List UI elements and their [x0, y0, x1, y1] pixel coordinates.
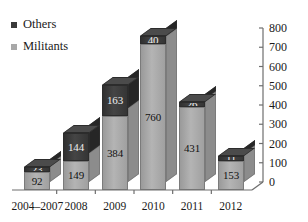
y-axis-tick-label: 600	[269, 61, 287, 73]
y-axis-tick-label: 400	[269, 99, 287, 111]
x-axis-ticks	[57, 190, 212, 194]
chart-axes	[0, 0, 308, 222]
y-axis-tick-label: 300	[269, 118, 287, 130]
y-axis-tick-label: 700	[269, 41, 287, 53]
y-axis-tick-label: 0	[269, 176, 275, 188]
y-axis-tick-label: 200	[269, 138, 287, 150]
stacked-column-chart: Others Militants 92231491443841637604043…	[0, 0, 308, 222]
y-axis-tick-label: 100	[269, 157, 287, 169]
axis-top-stub	[252, 28, 263, 36]
y-axis-tick-label: 800	[269, 22, 287, 34]
y-axis-tick-label: 500	[269, 80, 287, 92]
x-axis-depth-line	[252, 182, 263, 190]
x-axis-category-label: 2012	[186, 200, 276, 212]
